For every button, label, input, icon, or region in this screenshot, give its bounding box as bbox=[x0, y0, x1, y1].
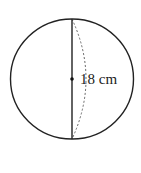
diameter-label: 18 cm bbox=[80, 71, 117, 87]
center-point bbox=[70, 77, 74, 81]
sphere-diagram: 18 cm bbox=[0, 0, 141, 173]
